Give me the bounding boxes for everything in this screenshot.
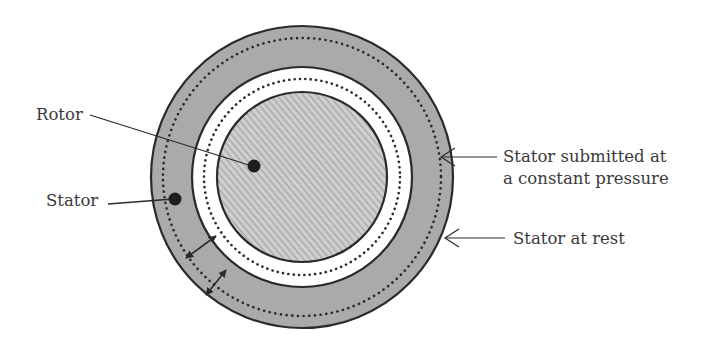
- rotor-label: Rotor: [36, 105, 83, 124]
- rotor-hatched-disk: [217, 92, 387, 262]
- stator-pressure-label-line1: Stator submitted at: [503, 147, 667, 166]
- stator-label: Stator: [46, 191, 98, 210]
- rotor-body: [217, 92, 387, 262]
- stator-center-dot: [169, 193, 182, 206]
- stator-rest-callout: Stator at rest: [445, 229, 625, 248]
- rotor-center-dot: [248, 160, 261, 173]
- stator-pressure-callout: Stator submitted at a constant pressure: [441, 147, 669, 188]
- rotor-stator-diagram: Rotor Stator Stator submitted at a const…: [0, 0, 706, 344]
- stator-rest-label: Stator at rest: [513, 229, 625, 248]
- stator-pressure-label-line2: a constant pressure: [503, 169, 669, 188]
